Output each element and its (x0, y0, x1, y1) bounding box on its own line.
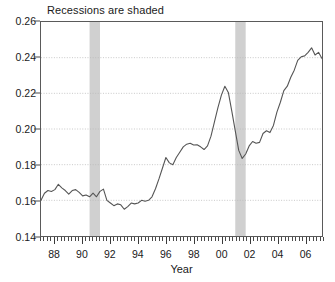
x-tick-major (54, 237, 55, 244)
x-tick-major (306, 237, 307, 244)
x-tick-minor (131, 237, 132, 241)
x-tick-major (138, 237, 139, 244)
x-tick-minor (320, 237, 321, 241)
x-tick-minor (120, 237, 121, 241)
x-tick-minor (218, 237, 219, 241)
x-tick-minor (208, 237, 209, 241)
y-tick-label: 0.26 (0, 15, 36, 27)
x-tick-minor (50, 237, 51, 241)
x-tick-minor (127, 237, 128, 241)
x-tick-minor (246, 237, 247, 241)
x-tick-label: 00 (216, 248, 228, 260)
x-axis-label: Year (40, 263, 323, 275)
x-tick-minor (236, 237, 237, 241)
y-axis-tick-labels: 0.140.160.180.200.220.240.26 (0, 21, 36, 237)
x-tick-label: 90 (76, 248, 88, 260)
x-tick-minor (211, 237, 212, 241)
plot-area (40, 21, 323, 237)
x-tick-minor (89, 237, 90, 241)
x-tick-minor (169, 237, 170, 241)
x-tick-minor (274, 237, 275, 241)
x-tick-minor (292, 237, 293, 241)
x-tick-minor (264, 237, 265, 241)
x-tick-minor (40, 237, 41, 241)
x-tick-minor (243, 237, 244, 241)
x-tick-minor (96, 237, 97, 241)
y-tick-label: 0.22 (0, 87, 36, 99)
x-tick-minor (232, 237, 233, 241)
x-tick-minor (148, 237, 149, 241)
x-tick-minor (162, 237, 163, 241)
x-tick-minor (299, 237, 300, 241)
x-tick-minor (309, 237, 310, 241)
x-tick-minor (215, 237, 216, 241)
x-tick-minor (57, 237, 58, 241)
x-tick-minor (103, 237, 104, 241)
x-axis-tick-marks (40, 237, 323, 247)
y-tick-label: 0.16 (0, 195, 36, 207)
x-tick-minor (323, 237, 324, 241)
x-tick-label: 96 (160, 248, 172, 260)
x-tick-minor (204, 237, 205, 241)
x-tick-minor (183, 237, 184, 241)
x-tick-minor (295, 237, 296, 241)
x-tick-minor (64, 237, 65, 241)
x-tick-major (250, 237, 251, 244)
x-tick-label: 02 (244, 248, 256, 260)
x-tick-minor (159, 237, 160, 241)
x-tick-minor (201, 237, 202, 241)
x-tick-minor (92, 237, 93, 241)
x-tick-minor (124, 237, 125, 241)
x-tick-minor (267, 237, 268, 241)
x-tick-label: 98 (188, 248, 200, 260)
x-tick-minor (152, 237, 153, 241)
x-tick-minor (173, 237, 174, 241)
horizontal-gridlines (41, 58, 322, 201)
x-tick-minor (316, 237, 317, 241)
x-tick-major (82, 237, 83, 244)
x-tick-label: 88 (48, 248, 60, 260)
x-tick-minor (225, 237, 226, 241)
x-tick-label: 04 (272, 248, 284, 260)
chart-svg (41, 22, 322, 236)
x-tick-minor (75, 237, 76, 241)
x-tick-minor (61, 237, 62, 241)
x-tick-minor (78, 237, 79, 241)
x-tick-minor (155, 237, 156, 241)
x-tick-minor (134, 237, 135, 241)
x-tick-minor (180, 237, 181, 241)
x-tick-minor (257, 237, 258, 241)
x-tick-minor (176, 237, 177, 241)
series-ratio-line (41, 48, 322, 209)
x-tick-minor (187, 237, 188, 241)
data-series-line (41, 48, 322, 209)
x-tick-minor (229, 237, 230, 241)
y-tick-label: 0.20 (0, 123, 36, 135)
x-tick-minor (117, 237, 118, 241)
x-tick-minor (239, 237, 240, 241)
chart-title: Recessions are shaded (47, 4, 164, 16)
x-tick-minor (99, 237, 100, 241)
x-tick-minor (302, 237, 303, 241)
x-tick-major (110, 237, 111, 244)
x-tick-minor (113, 237, 114, 241)
x-tick-label: 94 (132, 248, 144, 260)
x-tick-minor (313, 237, 314, 241)
x-axis-tick-labels: 88909294969800020406 (40, 248, 323, 262)
x-tick-minor (260, 237, 261, 241)
x-tick-minor (288, 237, 289, 241)
x-tick-minor (106, 237, 107, 241)
y-tick-label: 0.24 (0, 51, 36, 63)
chart-figure: Recessions are shaded 0.140.160.180.200.… (0, 0, 335, 282)
x-tick-minor (190, 237, 191, 241)
x-tick-minor (68, 237, 69, 241)
x-tick-major (278, 237, 279, 244)
x-tick-minor (47, 237, 48, 241)
x-tick-minor (281, 237, 282, 241)
x-tick-minor (271, 237, 272, 241)
x-tick-minor (141, 237, 142, 241)
x-tick-label: 06 (300, 248, 312, 260)
y-tick-label: 0.14 (0, 231, 36, 243)
x-tick-minor (145, 237, 146, 241)
x-tick-minor (71, 237, 72, 241)
